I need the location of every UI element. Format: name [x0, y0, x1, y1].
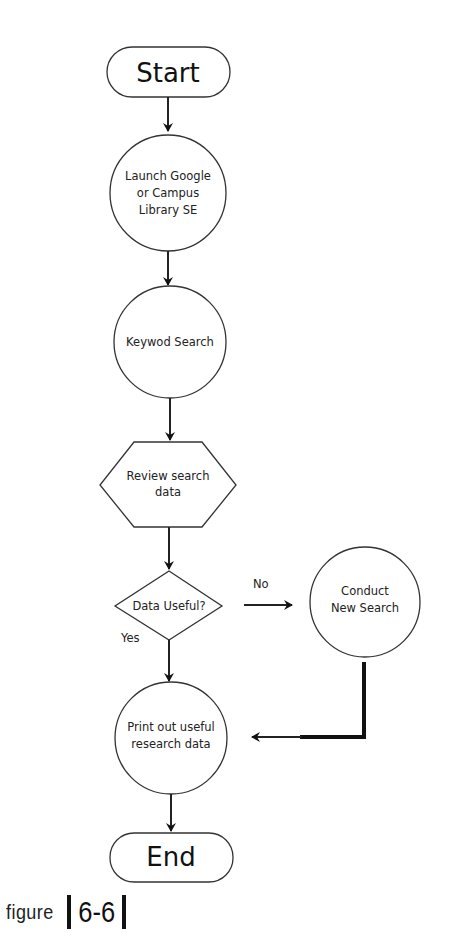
end-node: End: [110, 833, 233, 882]
caption-word: figure: [6, 901, 54, 924]
svg-text:Launch Google: Launch Google: [125, 169, 211, 183]
svg-text:Library SE: Library SE: [139, 203, 197, 217]
svg-text:Data Useful?: Data Useful?: [132, 599, 205, 613]
svg-text:End: End: [146, 842, 195, 872]
decision-node: Data Useful?: [115, 571, 222, 640]
svg-text:Review search: Review search: [127, 469, 210, 483]
no-label: No: [253, 577, 269, 591]
caption-number: 6-6: [75, 895, 119, 929]
caption-bar-left: [67, 895, 71, 929]
caption-bar-right: [122, 895, 126, 929]
start-node: Start: [107, 47, 230, 97]
svg-text:data: data: [155, 485, 181, 499]
svg-text:New Search: New Search: [331, 601, 399, 615]
svg-text:Keywod Search: Keywod Search: [126, 335, 214, 349]
svg-text:Start: Start: [136, 58, 200, 88]
svg-text:or Campus: or Campus: [137, 186, 199, 200]
flowchart: Start Launch Google or Campus Library SE…: [0, 0, 457, 952]
arrow-newsearch-to-print: [252, 662, 364, 737]
svg-text:research data: research data: [131, 737, 210, 751]
new-search-node: Conduct New Search: [310, 547, 420, 657]
figure-caption: figure 6-6: [6, 895, 126, 929]
launch-node: Launch Google or Campus Library SE: [110, 135, 226, 251]
svg-text:Conduct: Conduct: [341, 584, 389, 598]
yes-label: Yes: [120, 631, 140, 645]
keyword-node: Keywod Search: [114, 286, 226, 398]
review-node: Review search data: [100, 442, 236, 527]
svg-text:Print out useful: Print out useful: [127, 720, 215, 734]
print-node: Print out useful research data: [115, 682, 227, 794]
